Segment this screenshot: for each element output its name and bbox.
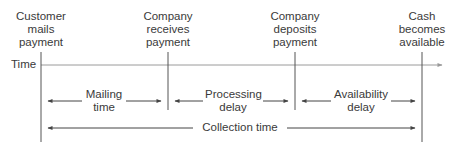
event-label-cash-available: Cash becomes available [382,10,455,49]
time-axis-label: Time [11,58,36,71]
interval-label-mailing-time: Mailing time [82,88,126,114]
interval-label-availability-delay: Availability delay [331,88,391,114]
total-label-collection-time: Collection time [193,121,287,134]
event-label-customer-mails: Customer mails payment [0,10,82,49]
interval-label-processing-delay: Processing delay [203,88,263,114]
event-label-company-deposits: Company deposits payment [255,10,335,49]
event-label-company-receives: Company receives payment [128,10,208,49]
